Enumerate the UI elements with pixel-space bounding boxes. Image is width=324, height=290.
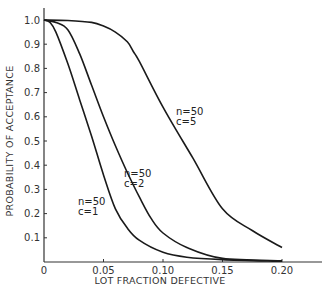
y-tick-label: 0.3 <box>24 184 40 195</box>
annotation-c5: n=50 c=5 <box>176 106 203 127</box>
y-axis-title: PROBABILITY OF ACCEPTANCE <box>4 66 15 217</box>
x-tick-label: 0.20 <box>271 265 293 276</box>
annotation-c2: n=50 c=2 <box>124 168 151 189</box>
y-tick-label: 0.5 <box>24 136 40 147</box>
curve-c1 <box>44 20 282 261</box>
annotation-c2-c: c=2 <box>124 178 144 189</box>
y-tick-label: 0.7 <box>24 87 40 98</box>
oc-curve-chart: 0.10.20.30.40.50.60.70.80.91.0 00.050.10… <box>0 0 324 290</box>
y-tick-label: 0.8 <box>24 63 40 74</box>
y-tick-label: 0.6 <box>24 111 40 122</box>
annotation-c5-c: c=5 <box>176 116 196 127</box>
y-tick-label: 0.4 <box>24 160 40 171</box>
y-tick-label: 0.1 <box>24 232 40 243</box>
x-tick-label: 0 <box>41 265 47 276</box>
y-tick-label: 1.0 <box>24 15 40 26</box>
y-tick-label: 0.2 <box>24 208 40 219</box>
x-axis-title: LOT FRACTION DEFECTIVE <box>94 275 225 286</box>
y-tick-label: 0.9 <box>24 39 40 50</box>
curve-c2 <box>44 20 282 261</box>
annotation-c1: n=50 c=1 <box>78 196 105 217</box>
annotation-c1-c: c=1 <box>78 206 98 217</box>
curves <box>44 20 282 261</box>
